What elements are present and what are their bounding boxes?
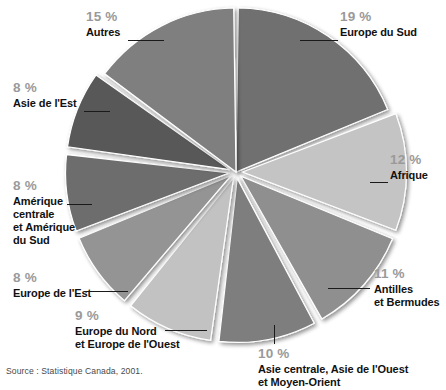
- slice-label-asie-centrale: 10 % Asie centrale, Asie de l'Ouest et M…: [258, 346, 408, 389]
- slice-name-asie-est: Asie de l'Est: [13, 97, 77, 110]
- leader-line-asie-est: [84, 111, 110, 112]
- slice-name-afrique: Afrique: [390, 169, 428, 182]
- slice-name-antilles-line1: Antilles: [374, 283, 440, 296]
- slice-name-amerique-line3: et Amérique: [13, 221, 75, 234]
- slice-name-amerique-line2: centrale: [13, 208, 75, 221]
- leader-line-europe-du-sud: [300, 40, 338, 41]
- slice-label-europe-est: 8 % Europe de l'Est: [13, 270, 91, 300]
- slice-label-europe-du-sud: 19 % Europe du Sud: [340, 9, 417, 39]
- slice-name-europe-du-sud: Europe du Sud: [340, 26, 417, 39]
- slice-label-afrique: 12 % Afrique: [390, 152, 428, 182]
- slice-percent-autres: 15 %: [86, 9, 120, 25]
- slice-percent-amerique: 8 %: [13, 178, 75, 194]
- slice-name-autres: Autres: [86, 26, 120, 39]
- leader-line-amerique: [67, 204, 92, 205]
- slice-percent-europe-nord: 9 %: [75, 308, 180, 324]
- slice-name-europe-est: Europe de l'Est: [13, 287, 91, 300]
- pie-chart-figure: 15 % Autres 19 % Europe du Sud 8 % Asie …: [0, 0, 446, 390]
- slice-name-asie-centrale: Asie centrale, Asie de l'Ouest et Moyen-…: [258, 363, 408, 389]
- leader-line-europe-est: [85, 291, 128, 292]
- slice-name-europe-nord: Europe du Nord et Europe de l'Ouest: [75, 325, 180, 351]
- source-note: Source : Statistique Canada, 2001.: [6, 366, 143, 376]
- leader-line-europe-nord: [165, 330, 207, 331]
- leader-line-autres: [128, 40, 164, 41]
- leader-line-antilles: [328, 288, 370, 289]
- slice-percent-afrique: 12 %: [390, 152, 428, 168]
- leader-line-asie-centrale: [274, 325, 275, 344]
- leader-line-afrique: [370, 182, 388, 183]
- slice-label-amerique: 8 % Amérique centrale et Amérique du Sud: [13, 178, 75, 247]
- slice-percent-antilles: 11 %: [374, 266, 440, 282]
- slice-name-antilles: Antilles et Bermudes: [374, 283, 440, 309]
- slice-label-antilles: 11 % Antilles et Bermudes: [374, 266, 440, 309]
- slice-name-antilles-line2: et Bermudes: [374, 296, 440, 309]
- slice-name-amerique-line4: du Sud: [13, 234, 75, 247]
- slice-label-asie-est: 8 % Asie de l'Est: [13, 80, 77, 110]
- pie-slices: [66, 8, 407, 342]
- slice-name-amerique: Amérique centrale et Amérique du Sud: [13, 195, 75, 247]
- slice-label-autres: 15 % Autres: [86, 9, 120, 39]
- slice-name-asie-centrale-line1: Asie centrale, Asie de l'Ouest: [258, 363, 408, 376]
- slice-percent-asie-est: 8 %: [13, 80, 77, 96]
- slice-name-amerique-line1: Amérique: [13, 195, 75, 208]
- slice-name-asie-centrale-line2: et Moyen-Orient: [258, 376, 408, 389]
- slice-name-europe-nord-line1: Europe du Nord: [75, 325, 180, 338]
- slice-percent-europe-est: 8 %: [13, 270, 91, 286]
- slice-percent-europe-du-sud: 19 %: [340, 9, 417, 25]
- slice-label-europe-nord: 9 % Europe du Nord et Europe de l'Ouest: [75, 308, 180, 351]
- slice-name-europe-nord-line2: et Europe de l'Ouest: [75, 338, 180, 351]
- slice-percent-asie-centrale: 10 %: [258, 346, 408, 362]
